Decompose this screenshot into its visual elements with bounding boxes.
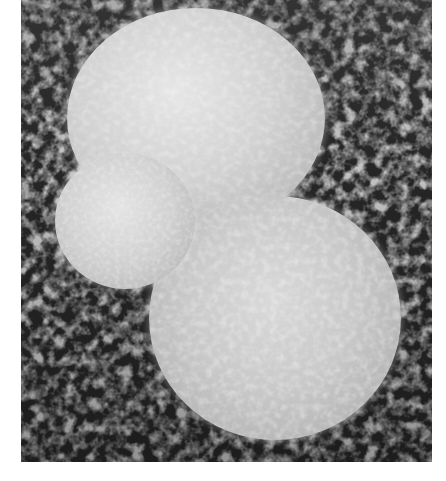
small-left-cell	[55, 153, 195, 289]
micrograph	[21, 0, 432, 462]
